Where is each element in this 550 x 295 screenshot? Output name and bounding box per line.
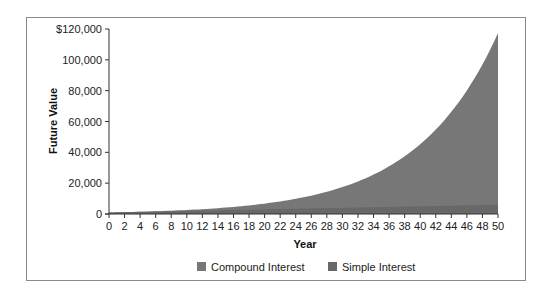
x-tick-label: 14 <box>212 220 224 232</box>
x-tick-label: 2 <box>121 220 127 232</box>
x-tick-label: 50 <box>492 220 504 232</box>
chart-areas <box>109 33 498 214</box>
x-tick-label: 18 <box>243 220 255 232</box>
y-tick-label: 0 <box>96 208 102 220</box>
x-tick-label: 22 <box>274 220 286 232</box>
y-tick-label: 80,000 <box>68 85 102 97</box>
x-tick-label: 20 <box>258 220 270 232</box>
x-tick-label: 6 <box>153 220 159 232</box>
y-tick-label: 100,000 <box>62 54 102 66</box>
x-tick-label: 34 <box>367 220 379 232</box>
legend-swatch-compound <box>197 262 206 271</box>
x-tick-label: 28 <box>321 220 333 232</box>
future-value-chart: 020,00040,00060,00080,000100,000$120,000… <box>0 0 550 295</box>
x-tick-label: 8 <box>168 220 174 232</box>
y-tick-label: $120,000 <box>56 23 102 35</box>
x-tick-label: 48 <box>476 220 488 232</box>
legend-item-simple: Simple Interest <box>328 261 415 273</box>
legend-label-simple: Simple Interest <box>342 261 415 273</box>
x-tick-label: 12 <box>196 220 208 232</box>
legend-label-compound: Compound Interest <box>211 261 305 273</box>
x-tick-label: 4 <box>137 220 143 232</box>
x-tick-label: 42 <box>430 220 442 232</box>
legend-item-compound: Compound Interest <box>197 261 305 273</box>
legend: Compound Interest Simple Interest <box>197 261 415 273</box>
x-tick-label: 0 <box>106 220 112 232</box>
y-tick-label: 40,000 <box>68 146 102 158</box>
x-tick-label: 40 <box>414 220 426 232</box>
x-tick-label: 32 <box>352 220 364 232</box>
x-tick-label: 36 <box>383 220 395 232</box>
x-axis-title: Year <box>293 238 317 250</box>
x-tick-label: 38 <box>399 220 411 232</box>
x-tick-label: 26 <box>305 220 317 232</box>
x-tick-label: 44 <box>445 220 457 232</box>
x-tick-label: 46 <box>461 220 473 232</box>
x-tick-label: 30 <box>336 220 348 232</box>
x-tick-label: 16 <box>227 220 239 232</box>
y-axis-title: Future Value <box>47 88 59 154</box>
y-tick-label: 60,000 <box>68 116 102 128</box>
y-tick-label: 20,000 <box>68 177 102 189</box>
legend-swatch-simple <box>328 262 337 271</box>
x-tick-label: 10 <box>181 220 193 232</box>
area-compound-interest <box>109 33 498 214</box>
x-tick-label: 24 <box>290 220 302 232</box>
